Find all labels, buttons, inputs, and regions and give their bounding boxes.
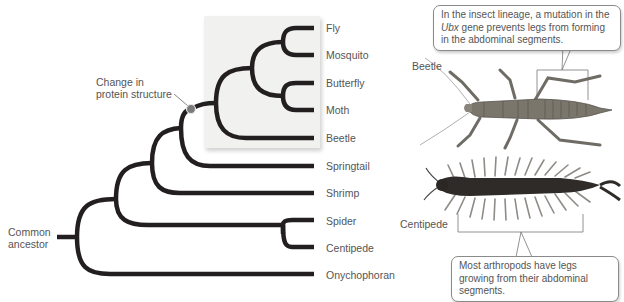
annotation-pointer [174,94,188,106]
gene-name-ubx: Ubx [441,22,459,33]
annotation-line-1: Change in [96,76,172,88]
insect-mutation-callout: In the insect lineage, a mutation in the… [433,5,621,51]
leaf-label-butterfly: Butterfly [326,77,365,89]
leaf-label-onychophoran: Onychophoran [326,269,395,281]
beetle-illustration [420,58,612,148]
protein-change-annotation: Change in protein structure [96,76,172,100]
leaf-label-springtail: Springtail [326,160,370,172]
annotation-line-2: protein structure [96,88,172,100]
leaf-label-spider: Spider [326,215,356,227]
callout-text-part: gene prevents legs from forming in the a… [441,22,605,46]
centipede-illustration [424,157,620,220]
leaf-label-beetle: Beetle [326,132,356,144]
leaf-label-shrimp: Shrimp [326,187,359,199]
arthropod-legs-callout: Most arthropods have legs growing from t… [451,256,619,302]
centipede-abdomen-bracket [458,214,583,232]
leaf-label-moth: Moth [326,104,349,116]
centipede-specimen-label: Centipede [400,218,448,230]
callout-text-part: In the insect lineage, a mutation in the [441,9,609,20]
leaf-label-fly: Fly [326,22,340,34]
root-label: Common ancestor [8,226,51,250]
mutation-marker-icon [187,105,196,114]
leaf-label-mosquito: Mosquito [326,49,369,61]
leaf-label-centipede: Centipede [326,242,374,254]
root-label-line-1: Common [8,226,51,238]
root-label-line-2: ancestor [8,238,51,250]
beetle-specimen-label: Beetle [412,60,442,72]
